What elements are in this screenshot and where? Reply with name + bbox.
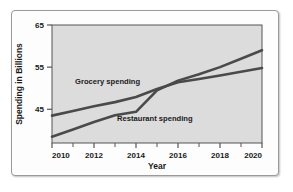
x-axis-title: Year xyxy=(148,161,167,171)
annotation-grocery-spending: Grocery spending xyxy=(75,77,140,86)
x-tick-label-2012: 2012 xyxy=(85,151,103,160)
x-tick-label-2010: 2010 xyxy=(52,151,70,160)
x-axis-ticks xyxy=(52,143,262,148)
y-axis-title: Spending in Billions xyxy=(14,43,24,125)
annotation-restaurant-spending: Restaurant spending xyxy=(117,114,193,123)
y-tick-label-45: 45 xyxy=(35,105,44,114)
chart-figure: 455565 201020122014201620182020 Grocery … xyxy=(0,0,293,192)
x-tick-label-2020: 2020 xyxy=(244,151,262,160)
x-axis-tick-labels: 201020122014201620182020 xyxy=(52,151,263,160)
y-tick-label-55: 55 xyxy=(35,63,44,72)
x-tick-label-2018: 2018 xyxy=(211,151,229,160)
x-tick-label-2016: 2016 xyxy=(169,151,187,160)
line-chart: 455565 201020122014201620182020 Grocery … xyxy=(11,10,279,176)
x-tick-label-2014: 2014 xyxy=(127,151,145,160)
y-axis-ticks xyxy=(47,25,52,109)
y-tick-label-65: 65 xyxy=(35,21,44,30)
y-axis-tick-labels: 455565 xyxy=(35,21,44,114)
